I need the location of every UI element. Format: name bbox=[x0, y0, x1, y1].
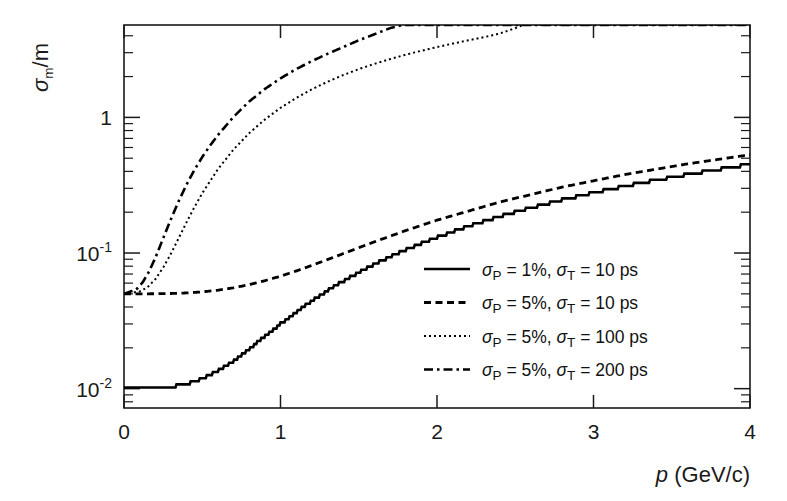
legend-label: σP = 1%, σT = 10 ps bbox=[482, 260, 638, 283]
x-tick-label: 3 bbox=[588, 420, 600, 443]
x-tick-label: 0 bbox=[118, 420, 130, 443]
curves-clip bbox=[124, 25, 750, 388]
y-axis-tick-labels: 10-210-11 bbox=[76, 106, 112, 400]
y-axis-title-text: σm/m bbox=[28, 43, 56, 92]
legend-label: σP = 5%, σT = 10 ps bbox=[482, 293, 638, 316]
x-tick-label: 2 bbox=[431, 420, 443, 443]
curve-dashed bbox=[124, 155, 750, 294]
y-axis-title: σm/m bbox=[28, 43, 56, 92]
frame-rect bbox=[124, 25, 750, 408]
x-axis-ticks bbox=[124, 25, 750, 408]
curve-dashdot bbox=[124, 25, 750, 294]
y-tick-label: 10-1 bbox=[76, 239, 112, 265]
x-axis-title: p (GeV/c) bbox=[655, 462, 750, 487]
x-axis-title-text: p (GeV/c) bbox=[655, 462, 750, 487]
chart-svg: 10-210-11 01234 σm/m p (GeV/c) σP = 1%, … bbox=[0, 0, 787, 501]
legend: σP = 1%, σT = 10 psσP = 5%, σT = 10 psσP… bbox=[424, 260, 648, 384]
curve-solid bbox=[124, 164, 750, 387]
y-tick-label: 10-2 bbox=[76, 375, 112, 401]
legend-label: σP = 5%, σT = 100 ps bbox=[482, 327, 648, 350]
y-tick-label: 1 bbox=[100, 106, 112, 129]
x-axis-tick-labels: 01234 bbox=[118, 420, 756, 443]
figure-container: 10-210-11 01234 σm/m p (GeV/c) σP = 1%, … bbox=[0, 0, 787, 501]
x-tick-label: 4 bbox=[744, 420, 756, 443]
x-tick-label: 1 bbox=[275, 420, 287, 443]
curve-dotted bbox=[124, 25, 750, 294]
plot-frame bbox=[124, 25, 750, 408]
legend-label: σP = 5%, σT = 200 ps bbox=[482, 360, 648, 383]
data-curves bbox=[124, 25, 750, 388]
